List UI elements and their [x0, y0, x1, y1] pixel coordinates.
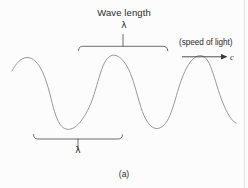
page-title: Wave length [0, 8, 248, 18]
figure-caption: (a) [0, 170, 248, 179]
lambda-label-bottom: λ [33, 146, 123, 155]
speed-of-light-symbol: c [230, 53, 234, 62]
speed-of-light-caption: (speed of light) [179, 39, 232, 47]
speed-of-light-arrow [182, 54, 228, 59]
figure-panel: Wave length λ λ (speed of light) c (a) [0, 0, 248, 188]
lambda-label-top: λ [0, 21, 248, 30]
page-edge-rule [244, 0, 245, 188]
wave-curve [12, 55, 236, 129]
wavelength-bracket-top [79, 35, 168, 51]
